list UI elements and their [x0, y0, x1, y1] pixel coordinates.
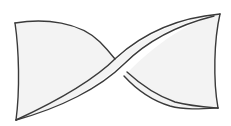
twisted-band-drawing [0, 0, 231, 126]
twisted-band-figure [0, 0, 231, 126]
